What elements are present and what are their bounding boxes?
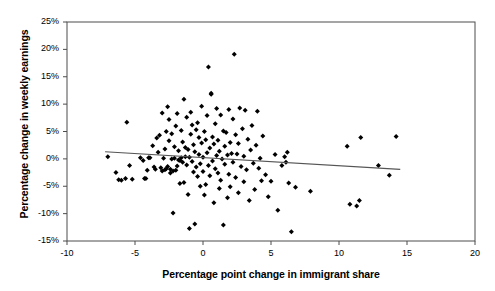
plot-canvas <box>0 0 495 291</box>
data-points <box>105 52 398 234</box>
axes-lines <box>67 22 475 241</box>
scatter-plot-figure: Percentage change in weekly earnings Per… <box>0 0 495 291</box>
trend-line <box>105 152 400 170</box>
axis-ticks <box>63 22 475 245</box>
